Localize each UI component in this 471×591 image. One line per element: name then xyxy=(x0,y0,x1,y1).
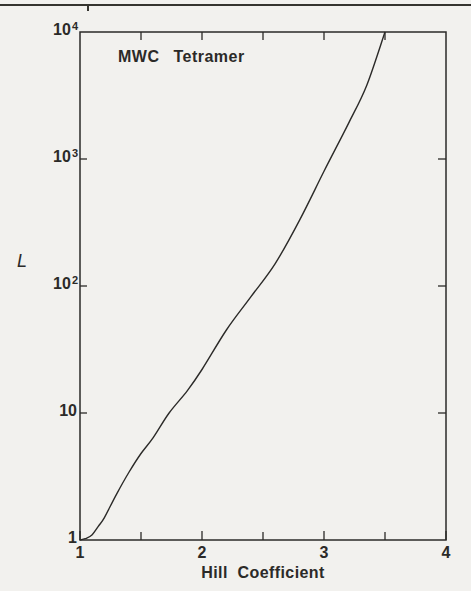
y-tick-base: 10 xyxy=(53,148,71,165)
figure-page: MWC Tetramer L Hill Coefficient 12341041… xyxy=(0,0,471,591)
x-tick-label: 2 xyxy=(188,544,216,562)
mwc-tetramer-curve xyxy=(80,32,385,540)
page-top-rule-mark xyxy=(87,6,89,11)
y-tick-exponent: 2 xyxy=(72,274,78,286)
y-tick-label: 103 xyxy=(0,148,77,166)
page-top-rule xyxy=(0,4,471,6)
chart-title: MWC Tetramer xyxy=(118,48,245,66)
y-tick-base: 10 xyxy=(53,275,71,292)
y-tick-base: 1 xyxy=(68,529,77,546)
x-tick-label: 3 xyxy=(310,544,338,562)
plot-area xyxy=(80,32,446,540)
y-tick-base: 10 xyxy=(59,402,77,419)
x-axis-label: Hill Coefficient xyxy=(80,564,446,582)
y-tick-exponent: 3 xyxy=(72,147,78,159)
y-tick-base: 10 xyxy=(53,21,71,38)
y-tick-label: 104 xyxy=(0,21,77,39)
y-tick-label: 1 xyxy=(0,529,77,547)
y-tick-label: 10 xyxy=(0,402,77,420)
y-tick-exponent: 4 xyxy=(72,20,78,32)
y-tick-label: 102 xyxy=(0,275,77,293)
y-axis-label: L xyxy=(17,251,27,272)
x-tick-label: 4 xyxy=(432,544,460,562)
